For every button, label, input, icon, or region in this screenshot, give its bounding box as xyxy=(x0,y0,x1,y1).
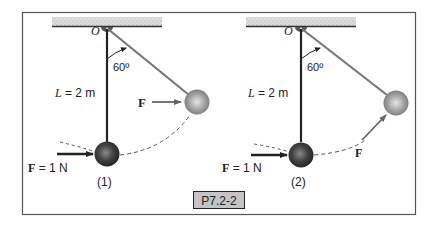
panel-caption: (2) xyxy=(291,175,306,189)
pivot-label: O xyxy=(91,24,100,38)
angle-label: 60º xyxy=(307,61,323,73)
force-var: F xyxy=(28,161,35,175)
force-var: F xyxy=(222,161,229,175)
swung-bob xyxy=(384,91,409,116)
bottom-bob xyxy=(95,142,120,167)
swung-force-label: F xyxy=(138,95,146,110)
bottom-bob xyxy=(289,143,314,168)
ceiling-hatch xyxy=(52,17,162,26)
figure-frame xyxy=(23,13,416,215)
angle-label: 60º xyxy=(113,61,129,73)
swung-force-label: F xyxy=(355,146,362,160)
force-val: = 1 N xyxy=(229,161,261,175)
pivot-label: O xyxy=(284,24,293,38)
length-val: = 2 m xyxy=(62,86,96,100)
length-val: = 2 m xyxy=(255,86,289,100)
ceiling-hatch xyxy=(246,17,356,26)
figure-label: P7.2-2 xyxy=(201,194,237,208)
panel-caption: (1) xyxy=(97,175,112,189)
swung-bob xyxy=(185,90,210,115)
pendulum-diagram: O 60º L = 2 m F F = 1 N (1) O xyxy=(0,0,436,226)
length-label: L = 2 m xyxy=(247,86,288,100)
length-label: L = 2 m xyxy=(54,86,95,100)
force-val: = 1 N xyxy=(35,161,67,175)
force-label: F = 1 N xyxy=(28,161,68,175)
force-label: F = 1 N xyxy=(222,161,262,175)
